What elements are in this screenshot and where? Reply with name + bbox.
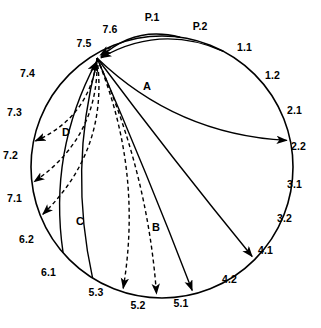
node-label-3-2: 3.2: [277, 213, 292, 224]
node-label-6-1: 6.1: [41, 267, 56, 278]
node-label-7-4: 7.4: [20, 68, 35, 79]
node-label-5-2: 5.2: [131, 300, 146, 311]
connection-7-5-to-5-3: [97, 58, 129, 288]
diagram-canvas: P.1P.21.11.22.12.23.13.24.14.25.15.25.36…: [0, 0, 321, 328]
group-label-B: B: [152, 222, 160, 233]
connection-7-5-to-2-1: [97, 58, 287, 140]
node-label-5-3: 5.3: [89, 287, 104, 298]
node-label-P-1: P.1: [145, 12, 160, 23]
connection-7-5-to-7-2: [34, 58, 97, 182]
node-label-4-1: 4.1: [258, 245, 273, 256]
node-label-4-2: 4.2: [222, 274, 237, 285]
node-label-3-1: 3.1: [287, 179, 302, 190]
outer-circle: [31, 36, 293, 298]
node-label-7-5: 7.5: [77, 38, 92, 49]
connection-7-5-to-7-1: [43, 58, 99, 214]
node-label-2-2: 2.2: [291, 141, 306, 152]
group-label-D: D: [62, 127, 70, 138]
group-label-C: C: [76, 216, 84, 227]
group-label-A: A: [143, 81, 151, 92]
node-label-7-1: 7.1: [7, 193, 22, 204]
node-label-6-2: 6.2: [19, 234, 34, 245]
connection-7-5-to-4-1: [97, 58, 252, 257]
node-label-2-1: 2.1: [287, 105, 302, 116]
node-label-7-6: 7.6: [103, 24, 118, 35]
node-label-1-2: 1.2: [265, 70, 280, 81]
node-label-P-2: P.2: [193, 21, 208, 32]
connection-diagram-svg: [0, 0, 321, 328]
chord-group: [34, 34, 287, 294]
node-label-1-1: 1.1: [237, 42, 252, 53]
node-label-7-3: 7.3: [7, 107, 22, 118]
node-label-5-1: 5.1: [174, 298, 189, 309]
node-label-7-2: 7.2: [3, 150, 18, 161]
connection-P-2-to-7-5: [101, 39, 224, 58]
